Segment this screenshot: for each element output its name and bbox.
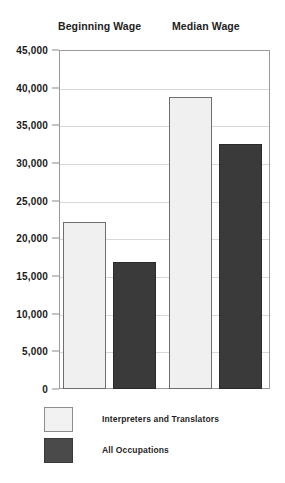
y-tick-label: 30,000 — [16, 158, 48, 169]
bar — [219, 144, 262, 389]
legend-item-all-occupations: All Occupations — [44, 438, 274, 469]
y-tick-mark — [52, 276, 59, 277]
y-tick-label: 0 — [42, 384, 48, 395]
y-tick-mark — [52, 389, 59, 390]
legend-item-interpreters-and-translators: Interpreters and Translators — [44, 407, 274, 438]
bar — [113, 262, 156, 389]
y-tick-label: 5,000 — [22, 346, 48, 357]
group-header-median-wage: Median Wage — [172, 20, 240, 32]
y-tick-mark — [52, 163, 59, 164]
bar — [63, 222, 106, 389]
y-tick-label: 15,000 — [16, 271, 48, 282]
y-tick-label: 45,000 — [16, 45, 48, 56]
y-tick-mark — [52, 238, 59, 239]
y-axis: 05,00010,00015,00020,00025,00030,00035,0… — [0, 50, 59, 389]
legend-swatch-icon-dark — [44, 438, 73, 463]
legend: Interpreters and Translators All Occupat… — [44, 407, 274, 469]
legend-swatch-icon-light — [44, 407, 73, 432]
bars-layer — [59, 50, 270, 389]
bar-chart: Beginning Wage Median Wage 05,00010,0001… — [0, 0, 285, 483]
y-tick-mark — [52, 313, 59, 314]
legend-label-interpreters-and-translators: Interpreters and Translators — [102, 414, 219, 424]
group-header-row: Beginning Wage Median Wage — [0, 20, 285, 36]
y-tick-mark — [52, 200, 59, 201]
y-tick-mark — [52, 50, 59, 51]
bar — [169, 97, 212, 389]
y-tick-label: 40,000 — [16, 82, 48, 93]
y-tick-label: 10,000 — [16, 308, 48, 319]
y-tick-mark — [52, 87, 59, 88]
y-tick-mark — [52, 125, 59, 126]
y-tick-label: 35,000 — [16, 120, 48, 131]
y-tick-label: 20,000 — [16, 233, 48, 244]
legend-label-all-occupations: All Occupations — [102, 445, 169, 455]
y-tick-label: 25,000 — [16, 195, 48, 206]
y-tick-mark — [52, 351, 59, 352]
group-header-beginning-wage: Beginning Wage — [58, 20, 141, 32]
